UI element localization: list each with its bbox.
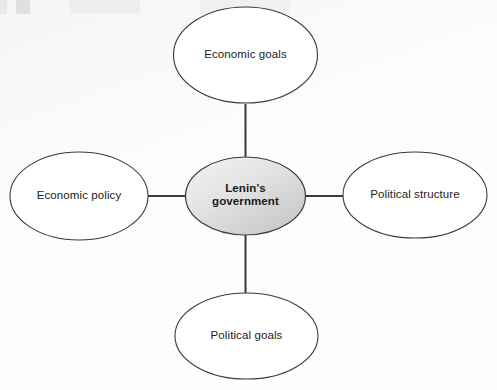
node-ellipse-political-structure[interactable] — [343, 152, 487, 238]
node-ellipse-political-goals[interactable] — [175, 293, 318, 379]
concept-map-diagram: Economic goals Economic policy Political… — [0, 0, 497, 390]
node-ellipse-economic-policy[interactable] — [10, 152, 148, 240]
node-ellipse-center[interactable] — [186, 157, 306, 235]
node-ellipse-economic-goals[interactable] — [174, 7, 318, 103]
diagram-canvas — [0, 0, 497, 390]
